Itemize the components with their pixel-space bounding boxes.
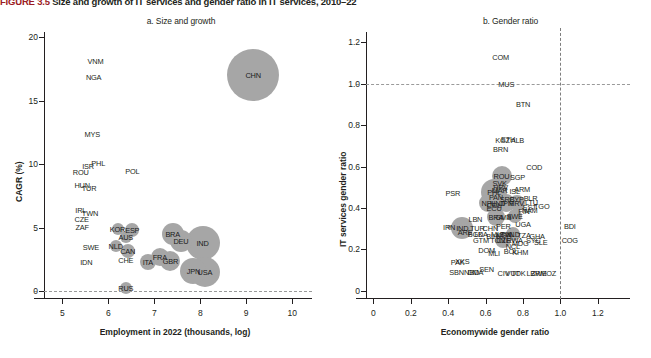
data-point-label: MLI	[488, 249, 500, 258]
data-point-label: ITA	[143, 258, 153, 267]
data-point-label: DEU	[173, 236, 188, 245]
y-axis-tick	[361, 291, 366, 292]
y-axis-tick-label: 15	[29, 96, 38, 106]
data-point-label: KHM	[512, 248, 528, 257]
data-point-label: CHN	[245, 71, 260, 80]
x-axis-tick	[62, 299, 63, 304]
y-axis-tick-label: 0.6	[348, 162, 360, 172]
y-axis-tick-label: 0	[355, 286, 360, 296]
y-axis-tick	[39, 291, 44, 292]
y-axis-tick	[39, 164, 44, 165]
x-axis-tick-label: 10	[287, 308, 296, 318]
data-point-label: ZAF	[75, 222, 88, 231]
data-point-label: TUR	[82, 184, 97, 193]
data-point-label: SBN	[449, 268, 464, 277]
x-axis-tick	[373, 299, 374, 304]
data-point-label: PSR	[446, 189, 461, 198]
y-axis-tick-label: 0.4	[348, 203, 360, 213]
x-axis-tick	[200, 299, 201, 304]
x-axis-tick-label: 9	[244, 308, 249, 318]
x-axis-tick	[246, 299, 247, 304]
y-axis-tick-label: 0.8	[348, 120, 360, 130]
y-axis-tick-label: 10	[29, 159, 38, 169]
data-point-label: RUS	[118, 283, 133, 292]
data-point-label: POL	[125, 166, 139, 175]
data-point-label: COG	[562, 236, 578, 245]
y-axis-tick	[361, 42, 366, 43]
panel-gender-ratio: b. Gender ratio Economywide gender ratio…	[326, 16, 651, 358]
data-point-label: ECU	[487, 203, 502, 212]
data-point-label: XKS	[455, 256, 469, 265]
data-point-label: CAN	[120, 246, 135, 255]
x-axis-tick-label: 5	[60, 308, 65, 318]
panel-a-title: a. Size and growth	[18, 16, 344, 26]
data-point-label: MOZ	[540, 269, 556, 278]
x-axis-tick-label: 7	[152, 308, 157, 318]
y-axis-tick-label: 1.0	[348, 79, 360, 89]
x-axis-tick	[523, 299, 524, 304]
data-point-label: COM	[492, 52, 509, 61]
data-point-label: BTN	[516, 100, 530, 109]
y-axis-tick	[361, 125, 366, 126]
data-point-label: AUS	[119, 232, 134, 241]
y-axis-tick-label: 20	[29, 32, 38, 42]
data-point-label: BDI	[564, 221, 576, 230]
figure-title-text: Size and growth of IT services and gende…	[52, 0, 356, 7]
data-point-label: GTM	[473, 236, 489, 245]
reference-line-horizontal	[34, 291, 312, 292]
y-axis-tick	[39, 37, 44, 38]
y-axis-tick	[361, 84, 366, 85]
scatter-plot-b: Economywide gender ratio IT services gen…	[366, 32, 624, 299]
y-axis-line-a	[44, 32, 45, 299]
y-axis-tick-label: 0	[33, 286, 38, 296]
data-point-label: USA	[198, 268, 213, 277]
y-axis-tick	[361, 249, 366, 250]
x-axis-tick	[411, 299, 412, 304]
data-point-label: UGA	[515, 220, 530, 229]
reference-line-horizontal	[356, 84, 630, 85]
data-point-label: MUS	[498, 79, 514, 88]
y-axis-title-b: IT services gender ratio	[338, 152, 348, 247]
y-axis-tick	[39, 228, 44, 229]
data-point-label: TOK	[511, 269, 525, 278]
x-axis-tick-label: 0.4	[442, 308, 454, 318]
y-axis-tick	[39, 101, 44, 102]
data-point-label: SEN	[479, 264, 494, 273]
data-point-label: PHL	[91, 158, 105, 167]
x-axis-tick	[448, 299, 449, 304]
x-axis-tick	[292, 299, 293, 304]
scatter-plot-a: Employment in 2022 (thousands, log) CAGR…	[44, 32, 306, 299]
x-axis-tick	[154, 299, 155, 304]
x-axis-tick-label: 0.8	[517, 308, 529, 318]
data-point-label: IRN	[443, 222, 455, 231]
x-axis-tick-label: 1.0	[555, 308, 567, 318]
data-point-label: IND	[197, 239, 209, 248]
x-axis-tick-label: 0.2	[405, 308, 417, 318]
y-axis-title-a: CAGR (%)	[14, 161, 24, 202]
panel-size-and-growth: a. Size and growth Employment in 2022 (t…	[0, 16, 326, 358]
data-point-label: NAM	[522, 206, 538, 215]
data-point-label: MYS	[85, 129, 100, 138]
y-axis-tick	[361, 167, 366, 168]
x-axis-tick	[560, 299, 561, 304]
data-point-label: VNM	[88, 57, 104, 66]
x-axis-line-b	[356, 298, 630, 299]
reference-line-vertical	[560, 28, 561, 299]
data-point-label: ROU	[73, 167, 89, 176]
y-axis-tick-label: 5	[33, 223, 38, 233]
figure-number: FIGURE 3.5	[0, 0, 50, 7]
x-axis-line-a	[34, 298, 312, 299]
x-axis-tick	[486, 299, 487, 304]
x-axis-tick	[598, 299, 599, 304]
x-axis-title-a: Employment in 2022 (thousands, log)	[44, 327, 306, 337]
x-axis-tick-label: 0	[371, 308, 376, 318]
panel-b-title: b. Gender ratio	[348, 16, 651, 26]
data-point-label: SWE	[83, 242, 99, 251]
x-axis-title-b: Economywide gender ratio	[366, 327, 624, 337]
x-axis-tick-label: 8	[198, 308, 203, 318]
data-point-label: ALB	[511, 135, 524, 144]
y-axis-line-b	[366, 32, 367, 299]
y-axis-tick	[361, 208, 366, 209]
x-axis-tick-label: 6	[106, 308, 111, 318]
data-point-label: CHE	[118, 255, 133, 264]
